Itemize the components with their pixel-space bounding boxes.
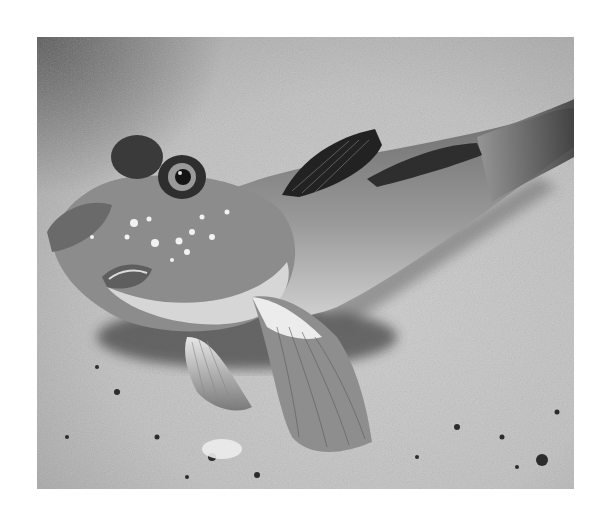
white-shell-fragment — [202, 439, 242, 459]
mudskipper-photo — [37, 37, 574, 489]
photo: Grayscale photograph of a mudskipper fis… — [37, 37, 574, 489]
